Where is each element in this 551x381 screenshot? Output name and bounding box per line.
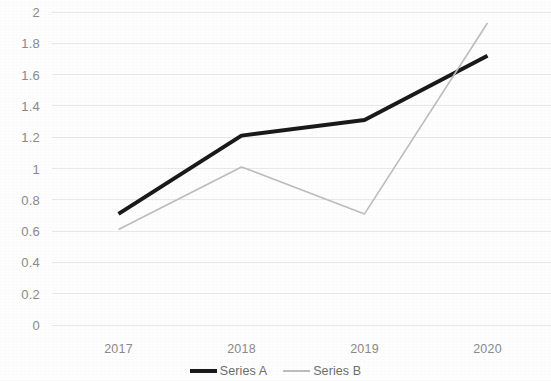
plot-svg <box>0 0 551 381</box>
plot-area <box>0 0 551 381</box>
y-axis-tick-label: 2 <box>33 5 40 20</box>
legend-item-series-a[interactable]: Series A <box>190 364 267 378</box>
x-axis-tick-label: 2017 <box>104 342 133 356</box>
y-axis-tick-label: 0.6 <box>21 224 40 239</box>
x-axis-tick-label: 2019 <box>350 342 379 356</box>
line-chart: 21.81.61.41.210.80.60.40.20 201720182019… <box>0 0 551 381</box>
y-axis-tick-label: 1 <box>33 161 40 176</box>
y-axis-tick-label: 1.4 <box>21 98 40 113</box>
legend-swatch-icon-series-a <box>190 369 217 373</box>
y-axis-tick-label: 1.2 <box>21 130 40 145</box>
y-axis-tick-label: 0.8 <box>21 192 40 207</box>
legend-swatch-icon-series-b <box>283 370 310 372</box>
y-axis-tick-label: 0.2 <box>21 286 40 301</box>
x-axis-tick-label: 2018 <box>227 342 256 356</box>
x-axis: 2017201820192020 <box>0 336 551 358</box>
gridlines <box>52 12 551 325</box>
legend-label-series-a: Series A <box>220 364 267 378</box>
legend-item-series-b[interactable]: Series B <box>283 364 361 378</box>
y-axis-tick-label: 1.8 <box>21 36 40 51</box>
y-axis-tick-label: 0 <box>33 318 40 333</box>
y-axis-tick-label: 1.6 <box>21 67 40 82</box>
legend-label-series-b: Series B <box>313 364 361 378</box>
x-axis-tick-label: 2020 <box>473 342 502 356</box>
chart-legend: Series A Series B <box>0 360 551 381</box>
series-lines <box>119 23 488 230</box>
y-axis: 21.81.61.41.210.80.60.40.20 <box>0 0 48 381</box>
y-axis-tick-label: 0.4 <box>21 255 40 270</box>
